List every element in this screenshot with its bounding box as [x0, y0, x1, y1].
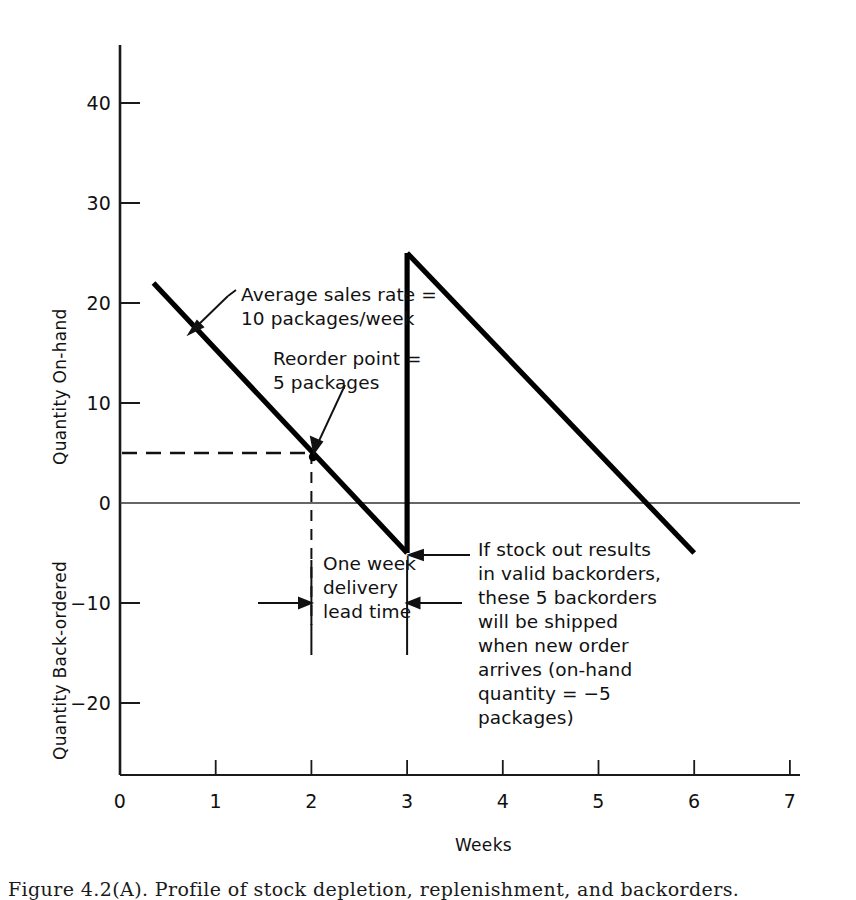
x-tick-label-2: 2: [301, 790, 321, 813]
x-tick-label-0: 0: [110, 790, 130, 813]
figure-root: 40 30 20 10 0 −10 −20 0 1 2 3 4 5 6 7 We…: [0, 0, 856, 900]
y-tick-marks: [120, 103, 140, 703]
x-tick-label-5: 5: [589, 790, 609, 813]
stockout-leader: [409, 550, 470, 560]
average-sales-rate-leader: [189, 290, 236, 334]
reorder-point-leader: [311, 385, 345, 453]
y-tick-label-10: 10: [83, 392, 111, 415]
annotation-stockout-line2: in valid backorders,: [478, 562, 661, 585]
y-axis-title-lower: Quantity Back-ordered: [50, 561, 71, 760]
reorder-point-marker: [309, 453, 317, 461]
y-tick-label-0: 0: [83, 492, 111, 515]
y-axis-title-upper: Quantity On-hand: [50, 308, 71, 465]
x-axis-title: Weeks: [455, 835, 512, 856]
x-tick-label-7: 7: [780, 790, 800, 813]
y-tick-label-40: 40: [83, 92, 111, 115]
y-tick-label-20: 20: [83, 292, 111, 315]
annotation-stockout-line4: will be shipped: [478, 610, 618, 633]
x-tick-marks: [216, 760, 790, 775]
annotation-average-sales-rate-line2: 10 packages/week: [241, 307, 415, 330]
annotation-stockout-line5: when new order: [478, 634, 629, 657]
y-tick-label-neg10: −10: [66, 592, 111, 615]
x-tick-label-6: 6: [684, 790, 704, 813]
x-tick-label-3: 3: [397, 790, 417, 813]
annotation-stockout-line6: arrives (on-hand: [478, 658, 632, 681]
annotation-lead-time-line3: lead time: [323, 600, 411, 623]
annotation-lead-time-line1: One week: [323, 552, 416, 575]
annotation-stockout-line1: If stock out results: [478, 538, 651, 561]
annotation-reorder-point-line1: Reorder point =: [273, 347, 422, 370]
annotation-stockout-line3: these 5 backorders: [478, 586, 657, 609]
figure-caption: Figure 4.2(A). Profile of stock depletio…: [8, 878, 856, 900]
y-tick-label-neg20: −20: [66, 692, 111, 715]
inventory-profile-chart: [0, 0, 856, 900]
x-tick-label-1: 1: [206, 790, 226, 813]
x-tick-label-4: 4: [493, 790, 513, 813]
annotation-lead-time-line2: delivery: [323, 576, 398, 599]
annotation-reorder-point-line2: 5 packages: [273, 371, 379, 394]
series-depletion-2: [407, 253, 694, 553]
annotation-average-sales-rate-line1: Average sales rate =: [241, 283, 437, 306]
annotation-stockout-line7: quantity = −5: [478, 682, 611, 705]
annotation-stockout-line8: packages): [478, 706, 574, 729]
y-tick-label-30: 30: [83, 192, 111, 215]
